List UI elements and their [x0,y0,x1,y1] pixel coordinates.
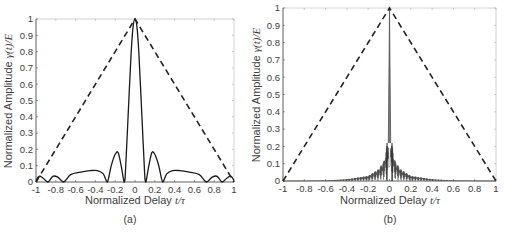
panel-a-caption: (a) [124,213,137,225]
figure-labels: Normalized Delay t/τ (a) Normalized Ampl… [0,0,505,235]
panel-a-ylabel: Normalized Amplitude γ(t)/E [2,33,15,168]
panel-b-ylabel: Normalized Amplitude γ(t)/E [250,27,263,162]
panel-b-caption: (b) [384,213,397,225]
panel-a-xlabel: Normalized Delay t/τ [85,194,186,206]
panel-b-xlabel: Normalized Delay t/τ [340,194,441,206]
